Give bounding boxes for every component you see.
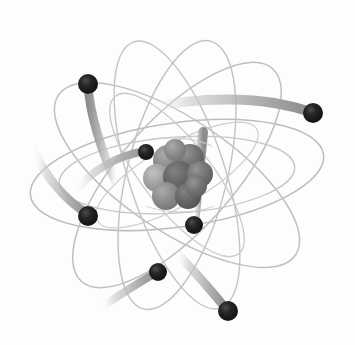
electron-inner-upper-left — [138, 144, 154, 160]
nucleus-particle — [185, 175, 207, 197]
atom-illustration — [0, 0, 355, 345]
nucleus-particle — [164, 139, 186, 161]
electron-upper-right — [303, 103, 323, 123]
electron-inner-lower-right — [185, 216, 203, 234]
electron-lower-left — [149, 263, 167, 281]
electron-lower-right — [218, 301, 238, 321]
electron-upper-left — [78, 74, 98, 94]
electron-left — [78, 206, 98, 226]
illustration-canvas — [0, 0, 355, 345]
